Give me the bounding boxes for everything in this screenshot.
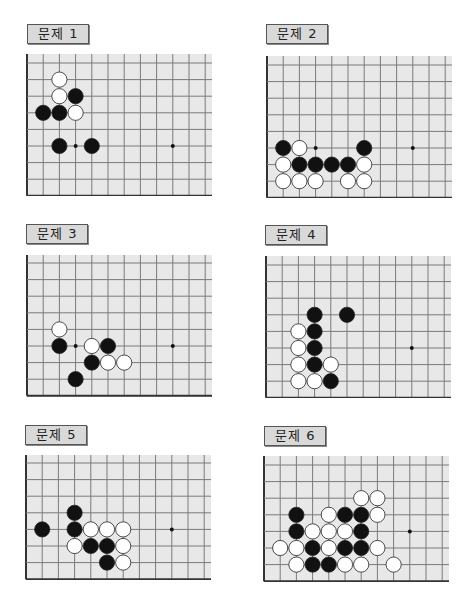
white-stone[interactable]: [305, 524, 320, 539]
black-stone[interactable]: [340, 157, 355, 172]
star-point-icon: [170, 527, 174, 531]
black-stone[interactable]: [36, 105, 51, 120]
black-stone[interactable]: [354, 507, 369, 522]
white-stone[interactable]: [337, 524, 352, 539]
white-stone[interactable]: [68, 105, 83, 120]
star-point-icon: [314, 146, 318, 150]
star-point-icon: [74, 144, 78, 148]
black-stone[interactable]: [276, 140, 291, 155]
black-stone[interactable]: [337, 507, 352, 522]
white-stone[interactable]: [357, 174, 372, 189]
black-stone[interactable]: [99, 538, 114, 553]
black-stone[interactable]: [52, 138, 67, 153]
white-stone[interactable]: [386, 557, 401, 572]
black-stone[interactable]: [35, 522, 50, 537]
white-stone[interactable]: [357, 157, 372, 172]
black-stone[interactable]: [84, 138, 99, 153]
white-stone[interactable]: [289, 557, 304, 572]
problem-label: 문제 2: [266, 24, 328, 44]
black-stone[interactable]: [84, 355, 99, 370]
white-stone[interactable]: [99, 522, 114, 537]
white-stone[interactable]: [308, 174, 323, 189]
black-stone[interactable]: [68, 89, 83, 104]
black-stone[interactable]: [307, 324, 322, 339]
black-stone[interactable]: [321, 557, 336, 572]
go-board: [26, 54, 212, 196]
white-stone[interactable]: [291, 340, 306, 355]
white-stone[interactable]: [321, 524, 336, 539]
white-stone[interactable]: [292, 140, 307, 155]
white-stone[interactable]: [354, 557, 369, 572]
problem-label: 문제 4: [265, 225, 327, 245]
problem-label: 문제 5: [25, 425, 87, 445]
black-stone[interactable]: [354, 524, 369, 539]
problem-label: 문제 1: [27, 24, 89, 44]
black-stone[interactable]: [339, 307, 354, 322]
go-board: [25, 455, 211, 580]
black-stone[interactable]: [52, 105, 67, 120]
white-stone[interactable]: [370, 491, 385, 506]
white-stone[interactable]: [84, 338, 99, 353]
white-stone[interactable]: [100, 355, 115, 370]
white-stone[interactable]: [291, 357, 306, 372]
black-stone[interactable]: [307, 340, 322, 355]
white-stone[interactable]: [117, 355, 132, 370]
black-stone[interactable]: [308, 157, 323, 172]
white-stone[interactable]: [323, 357, 338, 372]
black-stone[interactable]: [323, 374, 338, 389]
white-stone[interactable]: [321, 507, 336, 522]
star-point-icon: [171, 344, 175, 348]
black-stone[interactable]: [305, 557, 320, 572]
white-stone[interactable]: [289, 540, 304, 555]
star-point-icon: [408, 529, 412, 533]
problem-label: 문제 3: [26, 224, 88, 244]
white-stone[interactable]: [52, 322, 67, 337]
white-stone[interactable]: [116, 538, 131, 553]
white-stone[interactable]: [52, 72, 67, 87]
black-stone[interactable]: [357, 140, 372, 155]
black-stone[interactable]: [100, 338, 115, 353]
star-point-icon: [171, 144, 175, 148]
white-stone[interactable]: [370, 507, 385, 522]
white-stone[interactable]: [116, 522, 131, 537]
white-stone[interactable]: [370, 540, 385, 555]
go-board: [265, 256, 451, 398]
black-stone[interactable]: [67, 522, 82, 537]
black-stone[interactable]: [99, 555, 114, 570]
white-stone[interactable]: [340, 174, 355, 189]
black-stone[interactable]: [289, 524, 304, 539]
problem-label: 문제 6: [264, 426, 326, 446]
white-stone[interactable]: [321, 540, 336, 555]
white-stone[interactable]: [291, 374, 306, 389]
black-stone[interactable]: [307, 357, 322, 372]
black-stone[interactable]: [52, 338, 67, 353]
black-stone[interactable]: [324, 157, 339, 172]
go-board: [263, 456, 449, 582]
white-stone[interactable]: [337, 557, 352, 572]
go-board: [266, 56, 452, 198]
white-stone[interactable]: [52, 89, 67, 104]
black-stone[interactable]: [307, 307, 322, 322]
white-stone[interactable]: [67, 538, 82, 553]
white-stone[interactable]: [307, 374, 322, 389]
white-stone[interactable]: [273, 540, 288, 555]
black-stone[interactable]: [289, 507, 304, 522]
white-stone[interactable]: [291, 324, 306, 339]
star-point-icon: [410, 346, 414, 350]
white-stone[interactable]: [276, 157, 291, 172]
black-stone[interactable]: [292, 157, 307, 172]
white-stone[interactable]: [354, 491, 369, 506]
white-stone[interactable]: [83, 522, 98, 537]
black-stone[interactable]: [337, 540, 352, 555]
white-stone[interactable]: [116, 555, 131, 570]
black-stone[interactable]: [305, 540, 320, 555]
white-stone[interactable]: [276, 174, 291, 189]
star-point-icon: [411, 146, 415, 150]
black-stone[interactable]: [354, 540, 369, 555]
black-stone[interactable]: [67, 505, 82, 520]
star-point-icon: [74, 344, 78, 348]
white-stone[interactable]: [292, 174, 307, 189]
go-board: [26, 255, 212, 397]
black-stone[interactable]: [68, 372, 83, 387]
black-stone[interactable]: [83, 538, 98, 553]
